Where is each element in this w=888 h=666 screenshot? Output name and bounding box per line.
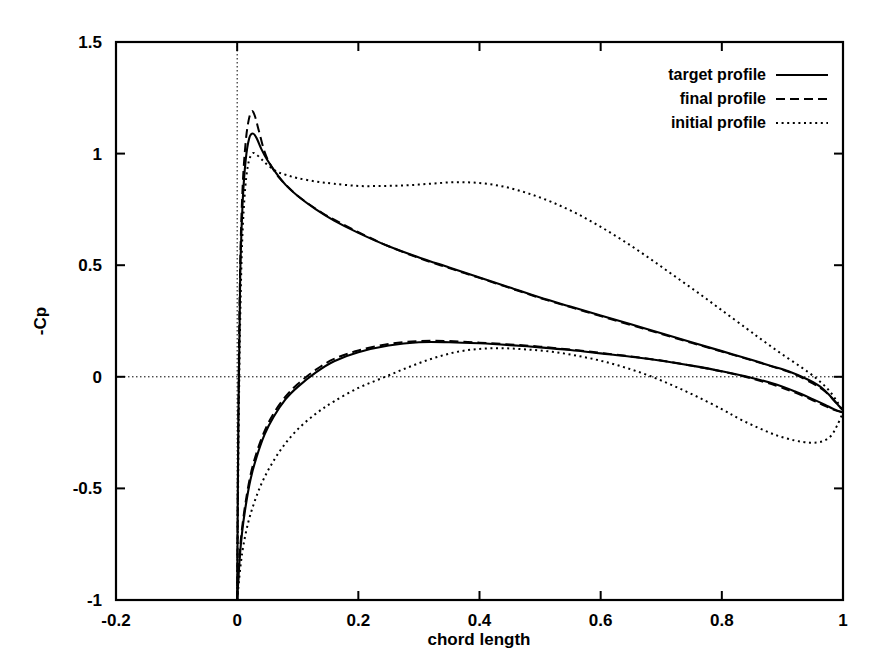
legend-label-target-profile: target profile xyxy=(668,66,766,83)
curve-final-profile-suction-side xyxy=(237,111,843,600)
curve-group xyxy=(237,111,843,600)
y-tick-label: 0.5 xyxy=(78,256,102,275)
y-tick-label: 1.5 xyxy=(78,33,102,52)
curve-target-profile-pressure-side xyxy=(237,342,843,600)
curve-final-profile-pressure-side xyxy=(237,341,843,600)
cp-distribution-chart: -0.200.20.40.60.81 1.510.50-0.5-1 chord … xyxy=(0,0,888,666)
y-tick-label: 0 xyxy=(93,368,102,387)
x-tick-labels: -0.200.20.40.60.81 xyxy=(101,611,847,630)
x-tick-label: 0.4 xyxy=(468,611,492,630)
curve-target-profile-suction-side xyxy=(237,134,843,600)
x-tick-label: 0.2 xyxy=(347,611,371,630)
x-tick-label: 0.6 xyxy=(589,611,613,630)
x-tick-label: -0.2 xyxy=(101,611,130,630)
y-tick-labels: 1.510.50-0.5-1 xyxy=(73,33,102,610)
y-tick-label: 1 xyxy=(93,145,102,164)
chart-container: -0.200.20.40.60.81 1.510.50-0.5-1 chord … xyxy=(0,0,888,666)
y-tick-label: -0.5 xyxy=(73,479,102,498)
legend: target profilefinal profileinitial profi… xyxy=(668,66,828,131)
x-axis-title: chord length xyxy=(428,630,531,649)
y-tick-label: -1 xyxy=(87,591,102,610)
y-axis-title: -Cp xyxy=(31,307,50,335)
x-tick-label: 1 xyxy=(838,611,847,630)
x-tick-label: 0 xyxy=(232,611,241,630)
x-tick-label: 0.8 xyxy=(710,611,734,630)
legend-label-final-profile: final profile xyxy=(680,90,766,107)
curve-initial-profile-pressure-side xyxy=(237,348,843,600)
legend-label-initial-profile: initial profile xyxy=(671,114,766,131)
